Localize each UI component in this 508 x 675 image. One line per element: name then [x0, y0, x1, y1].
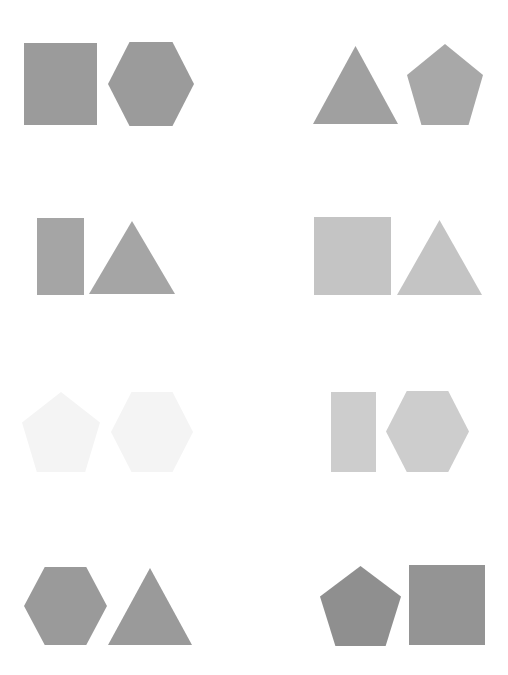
hexagon-shape	[108, 42, 194, 126]
triangle-shape	[397, 220, 482, 295]
stimulus-canvas	[0, 0, 508, 675]
shape-pair-panel	[0, 0, 508, 675]
shape-pair-panel	[0, 0, 508, 675]
shape-pair-panel	[0, 0, 508, 675]
rectangle-shape	[331, 392, 376, 472]
pentagon-shape	[407, 44, 483, 125]
hexagon-shape	[111, 392, 193, 472]
rectangle-shape	[37, 218, 84, 295]
pentagon-shape	[22, 392, 100, 472]
hexagon-shape	[24, 567, 107, 645]
shape-pair-panel	[0, 0, 508, 675]
hexagon-shape	[386, 391, 469, 472]
triangle-shape	[313, 46, 398, 124]
shape-pair-panel	[0, 0, 508, 675]
triangle-shape	[108, 568, 192, 645]
shape-pair-panel	[0, 0, 508, 675]
square-shape	[314, 217, 391, 295]
square-shape	[24, 43, 97, 125]
square-shape	[409, 565, 485, 645]
pentagon-shape	[320, 566, 401, 646]
triangle-shape	[89, 221, 175, 294]
shape-pair-panel	[0, 0, 508, 675]
shape-pair-panel	[0, 0, 508, 675]
